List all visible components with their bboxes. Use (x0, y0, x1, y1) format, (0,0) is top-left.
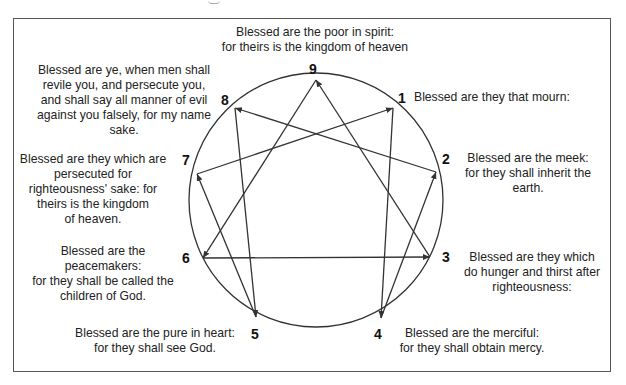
caption-6-line: Blessed are the (28, 244, 178, 259)
caption-2: Blessed are the meek: for they shall inh… (460, 151, 596, 196)
arrow-8-to-5 (235, 108, 256, 317)
caption-9-line: for theirs is the kingdom of heaven (220, 40, 410, 55)
caption-7: Blessed are they which are persecuted fo… (18, 152, 168, 227)
caption-1-line: Blessed are they that mourn: (414, 90, 574, 105)
caption-6-line: children of God. (28, 289, 178, 304)
caption-2-line: earth. (460, 181, 596, 196)
caption-9: Blessed are the poor in spirit: for thei… (220, 25, 410, 55)
point-number-5: 5 (251, 326, 259, 342)
caption-7-line: Blessed are they which are (18, 152, 168, 167)
caption-8: Blessed are ye, when men shall revile yo… (34, 63, 214, 138)
caption-2-line: Blessed are the meek: (460, 151, 596, 166)
caption-8-line: Blessed are ye, when men shall (34, 63, 214, 78)
caption-3-line: Blessed are they which (460, 250, 604, 265)
point-number-8: 8 (221, 92, 229, 108)
caption-5: Blessed are the pure in heart: for they … (73, 326, 237, 356)
arrow-layer (197, 80, 436, 318)
arrow-2-to-8 (235, 108, 436, 172)
caption-1: Blessed are they that mourn: (414, 90, 574, 105)
point-number-6: 6 (182, 250, 190, 266)
point-number-7: 7 (182, 152, 190, 168)
caption-9-line: Blessed are the poor in spirit: (220, 25, 410, 40)
arrow-5-to-7 (197, 174, 256, 317)
caption-8-line: sake. (34, 123, 214, 138)
caption-3-line: righteousness: (460, 280, 604, 295)
caption-4: Blessed are the merciful: for they shall… (397, 326, 547, 356)
arrow-1-to-4 (381, 108, 393, 318)
caption-3-line: do hunger and thirst after (460, 265, 604, 280)
caption-8-line: against you falsely, for my name (34, 108, 214, 123)
caption-7-line: persecuted for (18, 167, 168, 182)
caption-5-line: for they shall see God. (73, 341, 237, 356)
caption-6-line: for they shall be called the (28, 274, 178, 289)
caption-5-line: Blessed are the pure in heart: (73, 326, 237, 341)
caption-4-line: for they shall obtain mercy. (397, 341, 547, 356)
arrow-6-to-3 (203, 257, 430, 258)
point-number-2: 2 (442, 151, 450, 167)
point-number-3: 3 (442, 249, 450, 265)
caption-7-line: theirs is the kingdom (18, 197, 168, 212)
caption-3: Blessed are they which do hunger and thi… (460, 250, 604, 295)
caption-4-line: Blessed are the merciful: (397, 326, 547, 341)
arrow-7-to-1 (197, 108, 393, 174)
caption-7-line: of heaven. (18, 212, 168, 227)
point-number-9: 9 (309, 61, 317, 77)
caption-6-line: peacemakers: (28, 259, 178, 274)
caption-6: Blessed are the peacemakers: for they sh… (28, 244, 178, 304)
caption-8-line: revile you, and persecute you, (34, 78, 214, 93)
point-number-1: 1 (398, 90, 406, 106)
enneagram-circle (189, 73, 443, 327)
arrow-3-to-9 (316, 80, 430, 257)
caption-2-line: for they shall inherit the (460, 166, 596, 181)
caption-7-line: righteousness' sake: for (18, 182, 168, 197)
caption-8-line: and shall say all manner of evil (34, 93, 214, 108)
point-number-4: 4 (374, 326, 382, 342)
